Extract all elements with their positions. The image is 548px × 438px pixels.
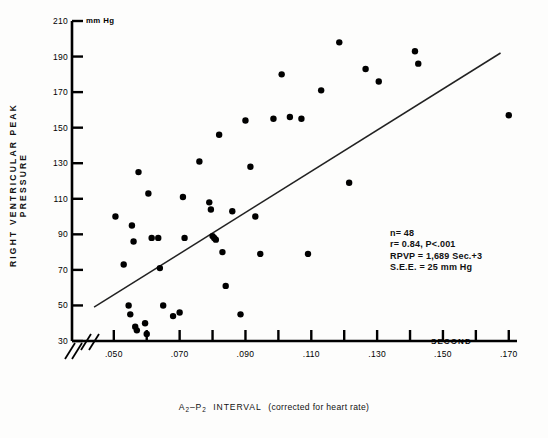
data-point: [176, 309, 182, 315]
data-point: [376, 78, 382, 84]
data-point: [127, 311, 133, 317]
data-point: [346, 180, 352, 186]
data-point: [219, 249, 225, 255]
x-tick-label: .170: [489, 349, 529, 359]
data-point: [362, 66, 368, 72]
data-point: [180, 194, 186, 200]
x-tick-label: .070: [160, 349, 200, 359]
data-point: [112, 213, 118, 219]
data-point: [247, 164, 253, 170]
data-point: [252, 213, 258, 219]
y-tick-label: 190: [30, 52, 68, 62]
data-point: [298, 116, 304, 122]
data-point: [208, 206, 214, 212]
y-tick-label: 170: [30, 87, 68, 97]
axis-ticks: [72, 21, 509, 341]
data-point: [160, 302, 166, 308]
x-axis-title: A2–P2 INTERVAL (corrected for heart rate…: [0, 402, 548, 413]
x-tick-label: .090: [225, 349, 265, 359]
data-point: [157, 265, 163, 271]
x-tick-label: .130: [357, 349, 397, 359]
data-point: [229, 208, 235, 214]
data-point: [412, 48, 418, 54]
data-point: [278, 71, 284, 77]
data-point: [170, 313, 176, 319]
data-point: [223, 283, 229, 289]
data-point: [336, 39, 342, 45]
x-axis-title-note: (corrected for heart rate): [268, 402, 369, 412]
data-point: [257, 251, 263, 257]
data-point: [270, 116, 276, 122]
y-tick-label: 30: [30, 336, 68, 346]
data-point: [144, 331, 150, 337]
statistics-annotation: n= 48 r= 0.84, P<.001 RPVP = 1,689 Sec.+…: [390, 228, 482, 274]
y-tick-label: 70: [30, 265, 68, 275]
y-axis-title: RIGHT VENTRICULAR PEAK PRESSURE: [8, 90, 28, 280]
data-point: [134, 327, 140, 333]
y-tick-label: 210: [30, 16, 68, 26]
data-point: [206, 199, 212, 205]
stat-n: n= 48: [390, 228, 482, 239]
data-point: [196, 158, 202, 164]
data-point: [415, 60, 421, 66]
data-point: [145, 190, 151, 196]
data-point: [506, 112, 512, 118]
data-point: [155, 235, 161, 241]
x-tick-label: .050: [94, 349, 134, 359]
x-tick-label: .110: [291, 349, 331, 359]
x-axis-title-text: A2–P2 INTERVAL: [179, 402, 268, 412]
data-point: [142, 320, 148, 326]
stat-correlation: r= 0.84, P<.001: [390, 239, 482, 250]
data-point: [237, 311, 243, 317]
data-point: [135, 169, 141, 175]
data-point: [148, 235, 154, 241]
y-tick-label: 150: [30, 123, 68, 133]
data-point: [242, 117, 248, 123]
y-tick-label: 90: [30, 229, 68, 239]
y-tick-label: 110: [30, 194, 68, 204]
data-point: [213, 236, 219, 242]
stat-see: S.E.E. = 25 mm Hg: [390, 262, 482, 273]
stat-equation: RPVP = 1,689 Sec.+3: [390, 251, 482, 262]
x-axis-unit-label: SECOND: [431, 337, 472, 346]
data-point: [287, 114, 293, 120]
data-point: [130, 238, 136, 244]
data-point: [216, 132, 222, 138]
data-point: [181, 235, 187, 241]
figure-scatter-plot: RIGHT VENTRICULAR PEAK PRESSURE mm Hg SE…: [0, 0, 548, 438]
data-point: [120, 261, 126, 267]
data-point: [318, 87, 324, 93]
y-tick-label: 50: [30, 300, 68, 310]
plot-canvas: [0, 0, 548, 438]
data-point: [125, 302, 131, 308]
x-tick-label: .150: [423, 349, 463, 359]
data-point: [129, 222, 135, 228]
y-tick-label: 130: [30, 158, 68, 168]
y-axis-unit-label: mm Hg: [86, 16, 114, 25]
data-point: [305, 251, 311, 257]
